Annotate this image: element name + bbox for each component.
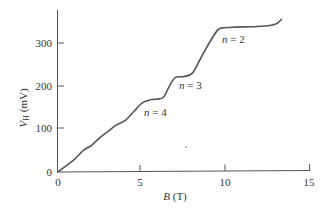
x-tick-label-5: 5 [137, 176, 143, 188]
x-tick-label-0: 0 [55, 176, 61, 188]
annotation-n4: n = 4 [144, 106, 167, 118]
x-tick-label-15: 15 [304, 176, 316, 188]
x-axis [58, 171, 311, 173]
x-tick-label-10: 10 [220, 176, 232, 188]
y-tick-label-300: 300 [36, 37, 53, 49]
x-axis-label: B (T) [163, 190, 187, 203]
y-tick-label-100: 100 [36, 122, 53, 134]
y-tick-label-200: 200 [36, 80, 53, 92]
stray-dot [185, 146, 187, 148]
hall-voltage-curve [58, 19, 281, 172]
y-axis-label: VH (mV) [17, 88, 31, 127]
annotation-n2: n = 2 [222, 33, 245, 45]
annotation-n3: n = 3 [179, 79, 202, 91]
hall-voltage-chart: 0 100 200 300 0 5 10 15 B (T) VH (mV) n … [0, 0, 332, 212]
y-tick-label-0: 0 [47, 166, 53, 178]
